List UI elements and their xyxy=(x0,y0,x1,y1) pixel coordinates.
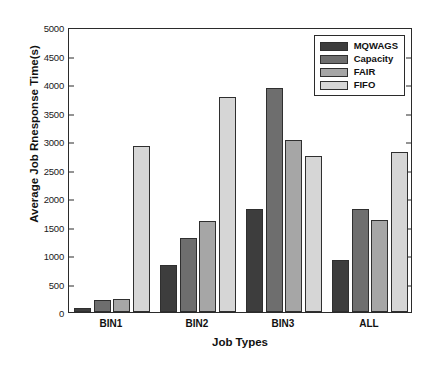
bar xyxy=(113,299,130,312)
legend-swatch xyxy=(320,42,348,51)
legend-item: MQWAGS xyxy=(320,40,398,52)
plot-area: MQWAGSCapacityFAIRFIFO xyxy=(68,28,412,313)
y-axis-tick-label: 3500 xyxy=(20,108,64,119)
x-axis-title: Job Types xyxy=(68,336,412,348)
y-axis-tick-mark xyxy=(69,57,74,58)
y-axis-tick-label: 500 xyxy=(20,279,64,290)
y-axis-tick-mark xyxy=(69,257,74,258)
bar xyxy=(266,88,283,312)
y-axis-tick-mark xyxy=(406,57,411,58)
y-axis-tick-label: 3000 xyxy=(20,137,64,148)
bar xyxy=(332,260,349,312)
y-axis-tick-label: 2000 xyxy=(20,194,64,205)
y-axis-tick-mark xyxy=(69,114,74,115)
legend-item: FAIR xyxy=(320,66,398,78)
bar xyxy=(180,238,197,312)
bar xyxy=(74,308,91,312)
y-axis-tick-mark xyxy=(69,200,74,201)
y-axis-tick-label: 5000 xyxy=(20,23,64,34)
bar xyxy=(352,209,369,312)
legend-swatch xyxy=(320,55,348,64)
legend-item: FIFO xyxy=(320,79,398,91)
y-axis-tick-mark xyxy=(69,228,74,229)
bar xyxy=(133,146,150,312)
legend-swatch xyxy=(320,81,348,90)
y-axis-tick-mark xyxy=(406,143,411,144)
bar xyxy=(160,265,177,312)
y-axis-tick-mark xyxy=(406,114,411,115)
legend-swatch xyxy=(320,68,348,77)
y-axis-tick-mark xyxy=(69,171,74,172)
bar xyxy=(285,140,302,312)
x-axis-tick-label: BIN3 xyxy=(240,318,326,329)
y-axis-tick-labels: 0500100015002000250030003500400045005000 xyxy=(20,28,64,313)
y-axis-tick-label: 4000 xyxy=(20,80,64,91)
y-axis-tick-label: 2500 xyxy=(20,165,64,176)
y-axis-tick-mark xyxy=(69,285,74,286)
x-axis-tick-label: BIN1 xyxy=(68,318,154,329)
y-axis-tick-label: 4500 xyxy=(20,51,64,62)
bar xyxy=(246,209,263,312)
chart-legend: MQWAGSCapacityFAIRFIFO xyxy=(314,35,405,96)
chart-figure: Average Job Rnesponse Time(s) 0500100015… xyxy=(0,0,434,366)
y-axis-tick-mark xyxy=(69,143,74,144)
x-axis-tick-label: ALL xyxy=(326,318,412,329)
bar xyxy=(391,152,408,312)
y-axis-tick-label: 1000 xyxy=(20,251,64,262)
bar xyxy=(305,156,322,312)
legend-label: FAIR xyxy=(354,67,376,77)
y-axis-tick-label: 0 xyxy=(20,308,64,319)
y-axis-tick-mark xyxy=(406,86,411,87)
bar xyxy=(199,221,216,312)
y-axis-tick-label: 1500 xyxy=(20,222,64,233)
x-axis-tick-label: BIN2 xyxy=(154,318,240,329)
bar xyxy=(94,300,111,312)
y-axis-tick-mark xyxy=(69,86,74,87)
bar xyxy=(371,220,388,312)
legend-label: Capacity xyxy=(354,54,394,64)
legend-item: Capacity xyxy=(320,53,398,65)
bar xyxy=(219,97,236,312)
legend-label: FIFO xyxy=(354,80,376,90)
legend-label: MQWAGS xyxy=(354,41,398,51)
